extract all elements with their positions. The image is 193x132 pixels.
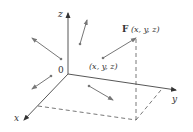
vector-F-arguments: (x, y, z) [131,25,160,34]
dashed-line-x-parallel [38,106,136,120]
vector-tail-dot-2 [79,43,82,46]
vector-arrow-4 [32,76,51,89]
y-axis-label: y [171,94,178,104]
z-axis-label: z [57,9,63,19]
vector-arrow-F [103,38,136,58]
x-axis [24,74,68,120]
projection-lines [38,39,161,120]
dashed-line-y-parallel [136,90,161,120]
point-label: (x, y, z) [89,62,118,71]
vector-F-label: F (x, y, z) [122,24,160,34]
vector-F-symbol: F [122,24,129,34]
diagram-svg: z 0 y x (x, y, z) F (x, y, z) [0,0,193,132]
x-axis-label: x [14,113,19,123]
vector-arrow-1 [32,38,61,59]
vector-tail-dot-1 [60,58,63,61]
vector-arrow-2 [80,20,87,44]
vector-field-diagram: z 0 y x (x, y, z) F (x, y, z) [0,0,193,132]
vector-tail-dot-F [102,57,105,60]
vector-tail-dot-5 [88,85,91,88]
vector-arrow-5 [89,86,113,100]
origin-label: 0 [58,65,64,75]
vector-tail-dot-4 [50,75,53,78]
vector-arrows [32,20,136,100]
y-axis [68,74,176,90]
